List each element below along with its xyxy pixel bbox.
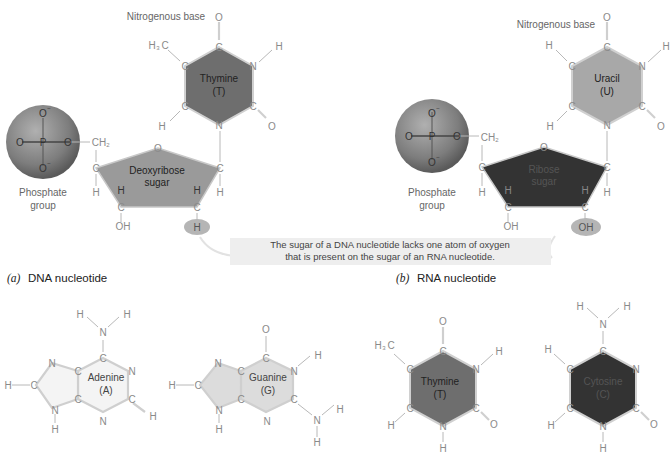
- svg-text:C: C: [237, 394, 244, 405]
- svg-text:N: N: [263, 416, 270, 427]
- panel-a-letter: (a): [7, 272, 21, 285]
- svg-text:N: N: [472, 364, 479, 375]
- svg-text:C: C: [566, 364, 573, 375]
- svg-text:C: C: [99, 353, 106, 364]
- atom-ch2: CH: [92, 137, 106, 148]
- callout-line-1: The sugar of a DNA nucleotide lacks one …: [270, 239, 510, 250]
- svg-text:(T): (T): [213, 86, 226, 97]
- panel-b-letter: (b): [396, 272, 410, 285]
- svg-text:H: H: [599, 443, 606, 454]
- svg-text:N: N: [632, 364, 639, 375]
- svg-text:(U): (U): [600, 86, 614, 97]
- svg-text:O: O: [154, 143, 162, 154]
- svg-text:H: H: [168, 380, 175, 391]
- svg-text:N: N: [215, 120, 222, 131]
- svg-text:sugar: sugar: [531, 176, 557, 187]
- svg-text:H: H: [216, 187, 223, 198]
- svg-text:H: H: [478, 187, 485, 198]
- svg-text:H: H: [387, 420, 394, 431]
- svg-text:H: H: [193, 222, 200, 233]
- svg-text:group: group: [30, 200, 56, 211]
- svg-text:C: C: [387, 340, 394, 351]
- svg-text:N: N: [214, 358, 221, 369]
- svg-text:H: H: [4, 380, 11, 391]
- svg-text:N: N: [439, 421, 446, 432]
- cytosine-structure: H H N C N C N C C H O H H Cytosine (C): [544, 301, 658, 454]
- svg-text:C: C: [568, 61, 575, 72]
- dna-nucleotide-panel: O − O P O O − CH 2 Phosphate group O C H…: [6, 11, 283, 235]
- svg-text:N: N: [249, 61, 256, 72]
- svg-text:C: C: [181, 101, 188, 112]
- svg-text:N: N: [638, 61, 645, 72]
- svg-text:O: O: [16, 137, 24, 148]
- sugar-label: Deoxyribose: [129, 165, 185, 176]
- svg-text:C: C: [632, 403, 639, 414]
- svg-text:N: N: [48, 358, 55, 369]
- svg-text:N: N: [313, 415, 320, 426]
- svg-text:group: group: [419, 200, 445, 211]
- adenine-label: Adenine: [88, 372, 125, 383]
- svg-text:H: H: [603, 187, 610, 198]
- base-caption: Nitrogenous base: [127, 11, 206, 22]
- svg-text:C: C: [638, 101, 645, 112]
- svg-text:C: C: [215, 42, 222, 53]
- svg-text:C: C: [439, 346, 446, 357]
- svg-text:C: C: [117, 202, 124, 213]
- svg-text:C: C: [237, 366, 244, 377]
- base-name-label: Thymine: [200, 73, 239, 84]
- svg-text:O: O: [64, 137, 72, 148]
- svg-text:C: C: [128, 394, 135, 405]
- svg-text:P: P: [429, 131, 436, 142]
- svg-text:N: N: [99, 416, 106, 427]
- svg-text:−: −: [47, 160, 51, 166]
- svg-text:C: C: [406, 403, 413, 414]
- svg-text:C: C: [599, 346, 606, 357]
- svg-text:2: 2: [106, 142, 110, 148]
- svg-text:H: H: [581, 185, 588, 196]
- svg-text:−: −: [436, 154, 440, 160]
- svg-text:C: C: [92, 163, 99, 174]
- svg-text:O: O: [603, 12, 611, 23]
- svg-text:Phosphate: Phosphate: [408, 187, 456, 198]
- svg-text:O: O: [405, 131, 413, 142]
- svg-text:C: C: [603, 42, 610, 53]
- svg-text:C: C: [161, 40, 168, 51]
- svg-text:H: H: [76, 309, 83, 320]
- svg-text:H: H: [662, 41, 669, 52]
- svg-text:C: C: [30, 380, 37, 391]
- svg-text:C: C: [181, 61, 188, 72]
- svg-text:C: C: [249, 101, 256, 112]
- svg-text:C: C: [290, 394, 297, 405]
- atom-o: O: [39, 108, 47, 119]
- svg-text:3: 3: [156, 45, 160, 51]
- svg-text:OH: OH: [579, 222, 594, 233]
- svg-text:N: N: [603, 120, 610, 131]
- svg-text:C: C: [566, 403, 573, 414]
- svg-text:H: H: [51, 424, 58, 435]
- svg-text:O: O: [39, 163, 47, 174]
- svg-text:C: C: [406, 364, 413, 375]
- svg-text:H: H: [92, 187, 99, 198]
- svg-text:H: H: [439, 443, 446, 454]
- svg-text:O: O: [540, 142, 548, 153]
- svg-text:N: N: [99, 327, 106, 338]
- svg-text:C: C: [568, 101, 575, 112]
- svg-text:O: O: [650, 419, 658, 430]
- svg-text:N: N: [290, 366, 297, 377]
- svg-text:N: N: [599, 421, 606, 432]
- svg-text:N: N: [599, 319, 606, 330]
- nucleotide-diagram: O − O P O O − CH 2 Phosphate group O C H…: [0, 0, 671, 466]
- svg-text:−: −: [47, 105, 51, 111]
- svg-text:3: 3: [382, 345, 386, 351]
- svg-text:H: H: [193, 185, 200, 196]
- svg-text:O: O: [215, 12, 223, 23]
- svg-text:C: C: [216, 163, 223, 174]
- adenine-five-ring: [36, 363, 78, 408]
- svg-text:N: N: [128, 366, 135, 377]
- oxygen-callout: The sugar of a DNA nucleotide lacks one …: [200, 236, 555, 265]
- svg-text:Nitrogenous base: Nitrogenous base: [517, 19, 596, 30]
- svg-text:O: O: [428, 108, 436, 119]
- svg-text:O: O: [262, 324, 270, 335]
- svg-text:CH: CH: [481, 132, 495, 143]
- svg-text:−: −: [436, 105, 440, 111]
